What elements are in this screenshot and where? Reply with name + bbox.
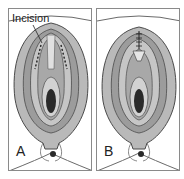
panel-a: Incision A — [8, 8, 92, 171]
panel-b: B — [96, 8, 180, 171]
panel-label-b: B — [104, 144, 113, 158]
panel-label-a: A — [16, 144, 25, 158]
incision-callout: Incision — [12, 13, 49, 24]
